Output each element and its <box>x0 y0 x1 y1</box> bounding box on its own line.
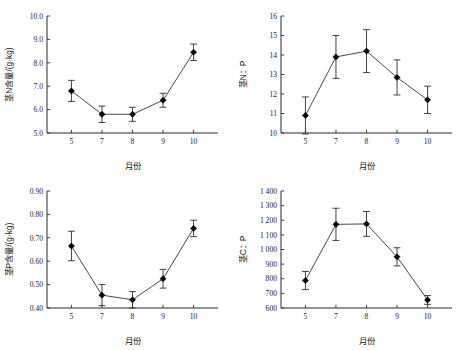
y-tick-label: 7.0 <box>34 82 44 91</box>
y-tick-label: 8.0 <box>34 59 44 68</box>
marker-diamond <box>302 112 308 118</box>
y-tick-label: 12 <box>269 90 277 99</box>
data-point <box>129 292 136 308</box>
chart-svg: 0.400.500.600.700.800.90578910月份茎P含量/(g·… <box>0 175 234 350</box>
y-axis-title: 茎C：P <box>238 235 248 263</box>
x-tick-label: 10 <box>190 137 198 146</box>
figure-container: 5.06.07.08.09.010.0578910月份茎N含量/(g·kg) 1… <box>0 0 468 350</box>
y-tick-label: 0.70 <box>30 234 43 243</box>
x-axis-title: 月份 <box>359 336 376 346</box>
y-axis-title: 茎N：P <box>238 60 248 88</box>
marker-diamond <box>302 277 308 283</box>
marker-diamond <box>99 292 105 298</box>
data-point <box>190 220 197 236</box>
marker-diamond <box>68 243 74 249</box>
data-point <box>160 269 167 288</box>
y-tick-label: 9.0 <box>34 35 44 44</box>
data-point <box>394 248 401 266</box>
marker-diamond <box>424 97 430 103</box>
data-point <box>302 97 309 134</box>
x-tick-label: 5 <box>304 137 308 146</box>
x-tick-label: 7 <box>100 312 104 321</box>
data-point <box>99 285 106 306</box>
y-tick-label: 0.90 <box>30 187 43 196</box>
x-tick-label: 8 <box>131 137 135 146</box>
x-tick-label: 9 <box>395 137 399 146</box>
series-line <box>71 52 193 114</box>
x-tick-label: 8 <box>365 312 369 321</box>
data-point <box>424 86 431 113</box>
x-tick-label: 9 <box>161 137 165 146</box>
data-point <box>333 208 340 240</box>
x-tick-label: 10 <box>190 312 198 321</box>
x-tick-label: 5 <box>70 312 74 321</box>
x-tick-label: 7 <box>334 312 338 321</box>
chart-svg: 10111213141516578910月份茎N：P <box>234 0 468 175</box>
y-tick-label: 14 <box>269 51 277 60</box>
chart-panel-stem-n-p-ratio: 10111213141516578910月份茎N：P <box>234 0 468 175</box>
y-tick-label: 6.0 <box>34 105 44 114</box>
chart-panel-stem-c-p-ratio: 6007008009001 0001 1001 2001 3001 400578… <box>234 175 468 350</box>
data-point <box>394 60 401 95</box>
y-tick-label: 900 <box>266 260 278 269</box>
data-point <box>99 106 106 122</box>
x-axis-title: 月份 <box>359 161 376 171</box>
y-tick-label: 15 <box>269 31 277 40</box>
y-tick-label: 700 <box>266 289 278 298</box>
y-tick-label: 1 200 <box>260 216 277 225</box>
data-point <box>160 93 167 107</box>
data-point <box>363 211 370 236</box>
y-tick-label: 1 100 <box>260 231 277 240</box>
data-point <box>302 271 309 289</box>
marker-diamond <box>129 111 135 117</box>
x-axis-title: 月份 <box>125 336 142 346</box>
chart-svg: 5.06.07.08.09.010.0578910月份茎N含量/(g·kg) <box>0 0 234 175</box>
x-tick-label: 10 <box>424 312 432 321</box>
y-tick-label: 13 <box>269 70 277 79</box>
y-tick-label: 11 <box>270 109 278 118</box>
y-axis-title: 茎N含量/(g·kg) <box>4 47 14 101</box>
x-tick-label: 9 <box>395 312 399 321</box>
chart-panel-stem-p-content: 0.400.500.600.700.800.90578910月份茎P含量/(g·… <box>0 175 234 350</box>
data-point <box>333 36 340 79</box>
data-point <box>68 80 75 101</box>
marker-diamond <box>129 297 135 303</box>
y-tick-label: 0.60 <box>30 257 43 266</box>
y-tick-label: 800 <box>266 274 278 283</box>
series-line <box>71 228 193 299</box>
x-tick-label: 10 <box>424 137 432 146</box>
y-tick-label: 1 300 <box>260 201 277 210</box>
data-point <box>190 44 197 60</box>
data-point <box>68 231 75 260</box>
marker-diamond <box>333 221 339 227</box>
x-tick-label: 9 <box>161 312 165 321</box>
x-tick-label: 5 <box>70 137 74 146</box>
data-point <box>363 30 370 73</box>
y-tick-label: 600 <box>266 304 278 313</box>
y-tick-label: 1 000 <box>260 245 277 254</box>
y-tick-label: 0.80 <box>30 210 43 219</box>
marker-diamond <box>190 225 196 231</box>
x-tick-label: 7 <box>100 137 104 146</box>
y-tick-label: 0.40 <box>30 304 43 313</box>
x-tick-label: 8 <box>131 312 135 321</box>
y-tick-label: 1 400 <box>260 187 277 196</box>
y-tick-label: 16 <box>269 12 277 21</box>
marker-diamond <box>160 276 166 282</box>
marker-diamond <box>160 97 166 103</box>
y-tick-label: 5.0 <box>34 129 44 138</box>
chart-panel-stem-n-content: 5.06.07.08.09.010.0578910月份茎N含量/(g·kg) <box>0 0 234 175</box>
marker-diamond <box>424 297 430 303</box>
y-axis-title: 茎P含量/(g·kg) <box>4 222 14 276</box>
marker-diamond <box>190 49 196 55</box>
marker-diamond <box>333 54 339 60</box>
chart-svg: 6007008009001 0001 1001 2001 3001 400578… <box>234 175 468 350</box>
y-tick-label: 0.50 <box>30 280 43 289</box>
data-point <box>129 107 136 121</box>
x-axis-title: 月份 <box>125 161 142 171</box>
x-tick-label: 7 <box>334 137 338 146</box>
y-tick-label: 10.0 <box>30 12 43 21</box>
x-tick-label: 8 <box>365 137 369 146</box>
x-tick-label: 5 <box>304 312 308 321</box>
y-tick-label: 10 <box>269 129 277 138</box>
